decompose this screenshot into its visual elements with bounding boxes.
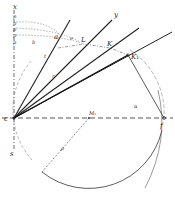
label-t: t [44,53,47,59]
tick-p1: p [13,13,17,20]
tick-p5: p [13,39,17,46]
label-s: s [10,150,14,158]
ray-K1-thick [14,55,128,118]
ray-y [14,20,112,118]
diagram-canvas: x y K K₁ L a c f M₁ s ρ α t r b e p p p … [0,0,175,200]
radius-rho [41,118,89,173]
geometric-diagram: x y K K₁ L a c f M₁ s ρ α t r b e p p p … [0,0,175,200]
label-e: e [70,35,73,41]
label-K: K [106,40,113,48]
label-b: b [32,39,35,45]
point-origin [13,117,16,120]
label-y: y [113,11,119,19]
dashdot-curve [58,44,128,55]
label-alpha: α [134,103,138,109]
label-M1: M₁ [88,110,96,116]
label-origin: c [4,115,8,123]
dotted-arc-3 [16,35,84,44]
label-rho: ρ [60,145,64,152]
circle-arc-bottom [42,130,162,188]
label-a: a [54,33,58,41]
label-K1: K₁ [130,53,139,61]
label-x: x [13,3,17,11]
label-f: f [159,122,164,130]
label-L: L [80,36,86,44]
point-M1 [88,117,90,119]
tick-p4: p [13,32,17,39]
